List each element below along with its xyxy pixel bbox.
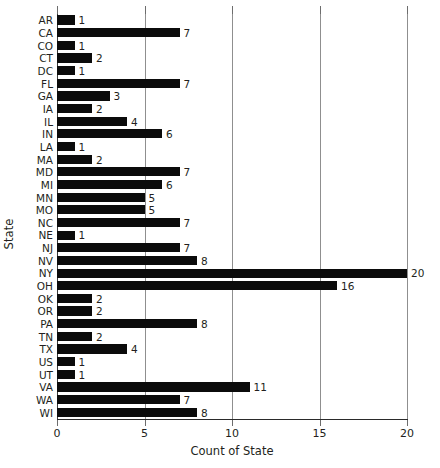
y-tick-label: LA xyxy=(40,142,53,153)
bar[interactable] xyxy=(57,294,92,303)
bar[interactable] xyxy=(57,79,180,88)
bar[interactable] xyxy=(57,155,92,164)
y-tick-label: GA xyxy=(38,91,53,102)
bar-value-label: 20 xyxy=(411,268,424,279)
y-tick-label: MN xyxy=(36,192,53,203)
x-tick xyxy=(320,420,321,426)
bar-row[interactable]: TX4 xyxy=(57,343,407,356)
bar-row[interactable]: MA2 xyxy=(57,153,407,166)
bar[interactable] xyxy=(57,231,75,240)
y-tick-label: AR xyxy=(39,15,53,26)
bar[interactable] xyxy=(57,344,127,353)
x-tick-label: 15 xyxy=(300,427,340,440)
bar-row[interactable]: CO1 xyxy=(57,39,407,52)
bar-row[interactable]: IL4 xyxy=(57,115,407,128)
bar-row[interactable]: OK2 xyxy=(57,292,407,305)
bar[interactable] xyxy=(57,243,180,252)
bar[interactable] xyxy=(57,104,92,113)
bar[interactable] xyxy=(57,281,337,290)
bar[interactable] xyxy=(57,332,92,341)
x-axis-title: Count of State xyxy=(57,444,407,458)
x-tick xyxy=(407,420,408,426)
bar-row[interactable]: FL7 xyxy=(57,77,407,90)
bar-row[interactable]: TN2 xyxy=(57,330,407,343)
bar-row[interactable]: CA7 xyxy=(57,27,407,40)
bar-value-label: 7 xyxy=(184,243,191,254)
x-tick-label: 20 xyxy=(387,427,427,440)
bar-row[interactable]: LA1 xyxy=(57,141,407,154)
bar-value-label: 2 xyxy=(96,331,103,342)
bar-row[interactable]: CT2 xyxy=(57,52,407,65)
y-tick-label: WA xyxy=(36,395,53,406)
bar-row[interactable]: NJ7 xyxy=(57,242,407,255)
bar-row[interactable]: NY20 xyxy=(57,267,407,280)
bar[interactable] xyxy=(57,269,407,278)
bar[interactable] xyxy=(57,91,110,100)
bar[interactable] xyxy=(57,53,92,62)
bar-row[interactable]: IN6 xyxy=(57,128,407,141)
bar-row[interactable]: WA7 xyxy=(57,394,407,407)
bar[interactable] xyxy=(57,319,197,328)
bar-row[interactable]: VA11 xyxy=(57,381,407,394)
bar-row[interactable]: NV8 xyxy=(57,254,407,267)
y-tick-label: NC xyxy=(38,218,53,229)
bar[interactable] xyxy=(57,205,145,214)
bar-value-label: 16 xyxy=(341,281,354,292)
y-tick-label: TX xyxy=(39,344,53,355)
bar-row[interactable]: UT1 xyxy=(57,368,407,381)
bar[interactable] xyxy=(57,180,162,189)
bar[interactable] xyxy=(57,218,180,227)
bar[interactable] xyxy=(57,382,250,391)
bar-row[interactable]: NC7 xyxy=(57,217,407,230)
bar[interactable] xyxy=(57,193,145,202)
bar-row[interactable]: MO5 xyxy=(57,204,407,217)
bar-value-label: 6 xyxy=(166,180,173,191)
bar-row[interactable]: GA3 xyxy=(57,90,407,103)
bar-value-label: 5 xyxy=(149,192,156,203)
bar-row[interactable]: OR2 xyxy=(57,305,407,318)
y-tick-label: OH xyxy=(37,281,53,292)
bar-value-label: 1 xyxy=(79,142,86,153)
x-tick-top xyxy=(320,6,321,14)
y-tick-label: PA xyxy=(40,319,53,330)
bar-value-label: 7 xyxy=(184,78,191,89)
bar[interactable] xyxy=(57,408,197,417)
bar[interactable] xyxy=(57,357,75,366)
bar[interactable] xyxy=(57,117,127,126)
bar-row[interactable]: MD7 xyxy=(57,166,407,179)
bar-value-label: 1 xyxy=(79,66,86,77)
y-tick-label: WI xyxy=(40,407,53,418)
bar-value-label: 3 xyxy=(114,91,121,102)
bar-value-label: 7 xyxy=(184,28,191,39)
bar[interactable] xyxy=(57,167,180,176)
bar[interactable] xyxy=(57,395,180,404)
bar-row[interactable]: DC1 xyxy=(57,65,407,78)
bar[interactable] xyxy=(57,142,75,151)
bar-value-label: 7 xyxy=(184,395,191,406)
bar-row[interactable]: MN5 xyxy=(57,191,407,204)
bar[interactable] xyxy=(57,15,75,24)
bar[interactable] xyxy=(57,28,180,37)
bar-row[interactable]: IA2 xyxy=(57,103,407,116)
bar-row[interactable]: AR1 xyxy=(57,14,407,27)
bar[interactable] xyxy=(57,66,75,75)
bar-row[interactable]: PA8 xyxy=(57,318,407,331)
bar[interactable] xyxy=(57,370,75,379)
x-tick-label: 0 xyxy=(37,427,77,440)
bar-row[interactable]: MI6 xyxy=(57,179,407,192)
bar-value-label: 2 xyxy=(96,306,103,317)
bar-row[interactable]: OH16 xyxy=(57,280,407,293)
bar-row[interactable]: WI8 xyxy=(57,406,407,419)
bar[interactable] xyxy=(57,129,162,138)
bar-chart: State AR1CA7CO1CT2DC1FL7GA3IA2IL4IN6LA1M… xyxy=(0,0,440,468)
bar-value-label: 1 xyxy=(79,40,86,51)
bar-value-label: 1 xyxy=(79,230,86,241)
bar-row[interactable]: US1 xyxy=(57,356,407,369)
bar[interactable] xyxy=(57,256,197,265)
bar-row[interactable]: NE1 xyxy=(57,229,407,242)
bar[interactable] xyxy=(57,41,75,50)
y-tick-label: OK xyxy=(38,294,53,305)
y-tick-label: CO xyxy=(37,40,53,51)
bar[interactable] xyxy=(57,306,92,315)
bar-value-label: 2 xyxy=(96,294,103,305)
